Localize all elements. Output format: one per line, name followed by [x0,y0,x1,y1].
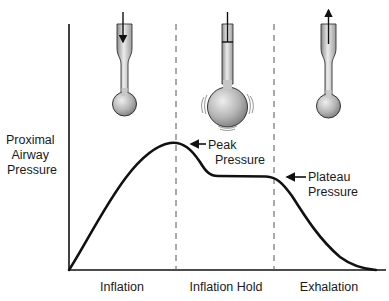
y-axis-label-line-2: Airway [12,148,50,162]
vibration-marks-icon [202,95,207,114]
phase-label-inflation: Inflation [100,280,144,294]
peak-pressure-label: Peak Pressure [208,138,265,167]
peak-pressure-label-line-1: Peak [208,138,237,152]
y-axis-label-line-3: Pressure [7,163,57,177]
y-axis-label: Proximal Airway Pressure [6,133,58,177]
peak-pressure-label-line-2: Pressure [215,153,265,167]
phase-label-exhalation: Exhalation [300,280,358,294]
lung-hold-icon [202,12,254,131]
lung-exhalation-icon [317,10,341,118]
plateau-pressure-label-line-2: Pressure [308,185,358,199]
y-axis-label-line-1: Proximal [6,133,55,147]
plateau-pressure-label-line-1: Plateau [308,170,350,184]
lung-inflation-icon [113,12,137,116]
airway-pressure-diagram: Proximal Airway Pressure Peak Pressure P… [0,0,389,301]
plateau-pressure-label: Plateau Pressure [308,170,358,199]
phase-label-inflation-hold: Inflation Hold [190,280,263,294]
